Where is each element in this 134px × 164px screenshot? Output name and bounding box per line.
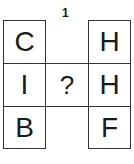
puzzle-number: 1 [62,6,69,20]
missing-letter-placeholder: ? [46,64,88,106]
middle-row-bottom-border [45,106,89,107]
cell-left-top: C [3,20,46,64]
cell-right-middle: H [88,63,131,107]
cell-right-top: H [88,20,131,64]
cell-left-bottom: B [3,106,46,149]
cell-left-middle: I [3,63,46,107]
cell-right-bottom: F [88,106,131,149]
